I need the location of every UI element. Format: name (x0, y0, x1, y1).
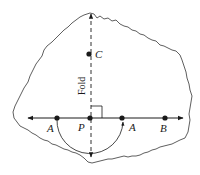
point-A-left (54, 115, 59, 120)
right-angle-marker (91, 106, 102, 118)
point-C (86, 51, 91, 56)
fold-label: Fold (76, 77, 87, 95)
reflection-arc (57, 119, 123, 154)
paper-outline (13, 13, 192, 163)
fold-diagram: A P A B C Fold (0, 0, 200, 175)
point-P (87, 115, 92, 120)
label-A-left: A (46, 122, 54, 134)
label-P: P (77, 121, 85, 133)
label-A-right: A (128, 121, 136, 133)
point-B (162, 115, 167, 120)
label-C: C (95, 48, 103, 60)
point-A-right (119, 115, 124, 120)
label-B: B (160, 122, 167, 134)
